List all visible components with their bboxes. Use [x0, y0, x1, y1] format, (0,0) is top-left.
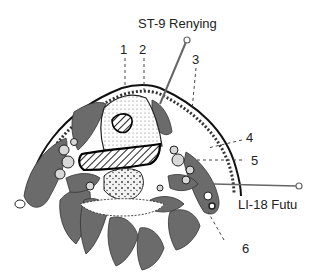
label-li18-futu: LI-18 Futu: [238, 198, 297, 211]
label-number-1: 1: [120, 43, 127, 56]
label-number-5: 5: [251, 154, 258, 167]
neck-cross-section-diagram: [0, 0, 316, 278]
label-number-4: 4: [246, 131, 253, 144]
label-number-2: 2: [139, 43, 146, 56]
needle-st9: [160, 37, 190, 104]
label-number-3: 3: [192, 53, 199, 66]
label-number-6: 6: [242, 242, 249, 255]
cricoid-band: [79, 144, 160, 170]
needle-li18: [214, 183, 302, 189]
label-st9-renying: ST-9 Renying: [138, 17, 217, 30]
